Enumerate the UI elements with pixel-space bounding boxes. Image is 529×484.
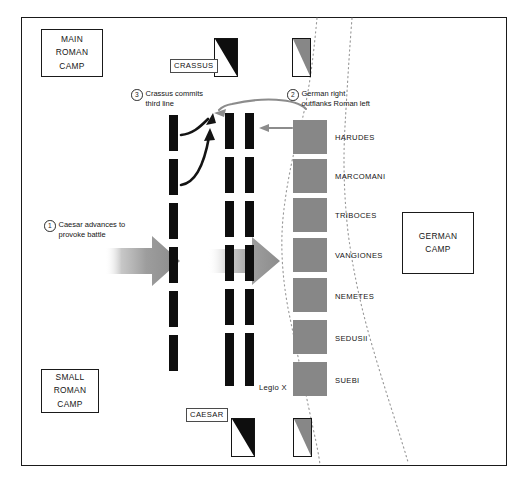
flag-triangle-icon: [232, 419, 254, 456]
german-unit-block: [293, 238, 327, 272]
camp-line: ROMAN: [56, 46, 89, 59]
camp-line: SMALL: [56, 371, 85, 384]
small-roman-camp: SMALL ROMAN CAMP: [41, 369, 99, 413]
cohort-block: [169, 159, 178, 195]
cohort-block: [245, 289, 254, 325]
cohort-block: [169, 203, 178, 239]
german-unit-label-harudes: HARUDES: [335, 133, 375, 142]
german-left-cavalry-flag: [292, 38, 311, 77]
caesar-cavalry-flag: [231, 418, 255, 457]
cohort-block: [169, 291, 178, 327]
legio-x-label: Legio X: [259, 383, 287, 392]
german-unit-label-sedusii: SEDUSII: [335, 334, 368, 343]
camp-line: CAMP: [57, 398, 82, 411]
german-camp: GERMAN CAMP: [402, 212, 474, 274]
annotation-2-german-outflanks: 2German right outflanks Roman left: [287, 89, 370, 109]
german-unit-label-vangiones: VANGIONES: [335, 251, 383, 260]
crassus-cavalry-flag: [214, 38, 238, 77]
cohort-block: [225, 157, 234, 193]
annotation-text: Crassus commits third line: [146, 89, 204, 109]
caesar-name-tag: CAESAR: [186, 408, 228, 422]
german-unit-label-nemetes: NEMETES: [335, 292, 374, 301]
cohort-block: [169, 335, 178, 371]
camp-line: ROMAN: [54, 384, 87, 397]
annotation-text: Caesar advances to provoke battle: [59, 220, 126, 240]
german-unit-block: [293, 120, 327, 154]
annotation-number: 3: [131, 89, 143, 101]
cohort-block: [245, 157, 254, 193]
german-unit-block: [293, 362, 327, 396]
annotation-text: German right outflanks Roman left: [302, 89, 370, 109]
cohort-block: [225, 201, 234, 237]
camp-line: CAMP: [59, 60, 84, 73]
flag-triangle-icon: [293, 39, 310, 76]
cohort-block: [225, 289, 234, 325]
cohort-block: [225, 245, 234, 281]
german-unit-label-triboces: TRIBOCES: [335, 211, 377, 220]
flag-triangle-icon: [294, 419, 311, 456]
cohort-block: [245, 113, 254, 149]
cohort-block: [225, 113, 234, 149]
annotation-1-caesar-advances: 1Caesar advances to provoke battle: [44, 220, 125, 240]
cohort-block: [169, 115, 178, 151]
main-roman-camp: MAIN ROMAN CAMP: [41, 29, 103, 77]
german-unit-block: [293, 320, 327, 354]
crassus-name-tag: CRASSUS: [170, 59, 218, 73]
german-unit-block: [293, 278, 327, 312]
cohort-block: [225, 333, 234, 386]
cohort-block: [169, 247, 178, 283]
german-unit-block: [293, 198, 327, 232]
cohort-block: [245, 333, 254, 386]
annotation-3-crassus-commits: 3Crassus commits third line: [131, 89, 203, 109]
german-unit-label-marcomani: MARCOMANI: [335, 172, 385, 181]
camp-line: MAIN: [61, 33, 83, 46]
german-unit-block: [293, 159, 327, 193]
german-unit-label-suebi: SUEBI: [335, 376, 360, 385]
german-right-cavalry-flag: [293, 418, 312, 457]
cohort-block: [245, 201, 254, 237]
camp-line: GERMAN: [419, 230, 458, 243]
annotation-number: 2: [287, 89, 299, 101]
camp-line: CAMP: [425, 243, 450, 256]
cohort-block: [245, 245, 254, 281]
annotation-number: 1: [44, 220, 56, 232]
battle-map-diagram: HARUDES MARCOMANI TRIBOCES VANGIONES NEM…: [0, 0, 529, 484]
flag-triangle-icon: [215, 39, 237, 76]
